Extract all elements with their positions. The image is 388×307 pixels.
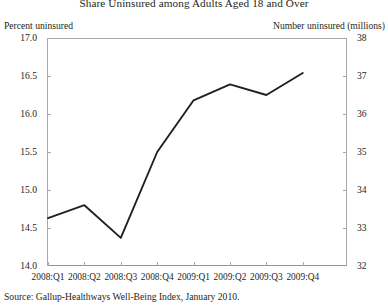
left-tick-label: 14.5	[20, 223, 37, 233]
source-note: Source: Gallup-Healthways Well-Being Ind…	[4, 291, 239, 302]
right-axis-title: Number uninsured (millions)	[273, 20, 385, 31]
left-tick-label: 16.0	[20, 109, 37, 119]
right-tick-label: 34	[357, 185, 367, 195]
left-tick-label: 15.5	[20, 147, 37, 157]
right-tick-label: 32	[357, 261, 367, 271]
x-axis-label-4: 2009:Q1	[177, 272, 210, 282]
right-tick-label: 33	[357, 223, 367, 233]
x-axis-label-2: 2008:Q3	[104, 272, 137, 282]
right-tick-label: 38	[357, 33, 367, 43]
right-tick-label: 35	[357, 147, 367, 157]
data-line-series	[47, 38, 347, 266]
x-axis-label-5: 2009:Q2	[214, 272, 247, 282]
left-tick-label: 14.0	[20, 261, 37, 271]
right-tick-label: 37	[357, 71, 367, 81]
x-axis-label-3: 2008:Q4	[141, 272, 174, 282]
right-tick-label: 36	[357, 109, 367, 119]
left-tick-label: 15.0	[20, 185, 37, 195]
chart-figure: Share Uninsured among Adults Aged 18 and…	[0, 0, 388, 307]
x-axis-label-0: 2008:Q1	[32, 272, 65, 282]
chart-title: Share Uninsured among Adults Aged 18 and…	[0, 0, 388, 9]
series-line	[48, 73, 303, 238]
plot-area: 14.014.515.015.516.016.517.0 32333435363…	[47, 38, 347, 266]
left-tick-label: 17.0	[20, 33, 37, 43]
left-axis-title: Percent uninsured	[4, 20, 73, 31]
x-axis-label-6: 2009:Q3	[250, 272, 283, 282]
x-axis-label-1: 2008:Q2	[68, 272, 101, 282]
left-tick-label: 16.5	[20, 71, 37, 81]
x-axis-label-7: 2009:Q4	[286, 272, 319, 282]
